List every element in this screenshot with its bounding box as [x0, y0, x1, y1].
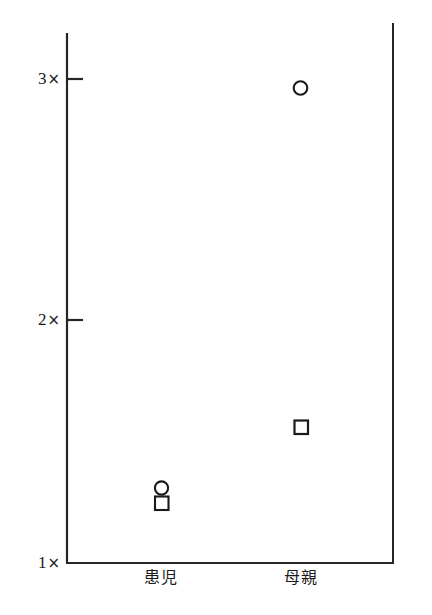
y-tick-label-2x-times: × [46, 311, 60, 329]
y-axis-ticks [67, 79, 83, 320]
scatter-chart: 3× 2× 1× 患児 母親 [0, 0, 432, 615]
marker-square-mother [295, 421, 309, 435]
y-tick-label-2x: 2× [10, 311, 60, 328]
x-tick-label-mother: 母親 [251, 570, 351, 586]
plot-area-svg [0, 0, 432, 615]
y-tick-label-1x: 1× [10, 554, 60, 571]
axis-frame [66, 23, 394, 563]
y-tick-label-1x-times: × [46, 554, 60, 572]
y-tick-label-3x: 3× [10, 70, 60, 87]
data-group-patient [155, 481, 169, 510]
y-tick-label-3x-times: × [46, 70, 60, 88]
data-group-mother [294, 81, 308, 434]
marker-circle-mother [294, 81, 308, 95]
x-tick-label-patient: 患児 [111, 570, 211, 586]
marker-circle-patient [155, 481, 168, 494]
marker-square-patient [155, 497, 169, 511]
